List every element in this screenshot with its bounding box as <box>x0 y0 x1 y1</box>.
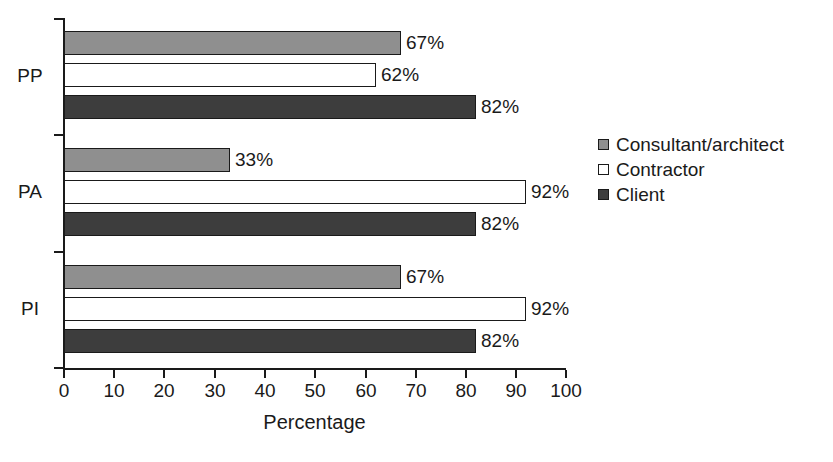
x-axis-tick <box>565 370 567 378</box>
bar-value-pp-client: 82% <box>481 95 519 119</box>
bar-value-pp-contractor: 62% <box>381 63 419 87</box>
legend-swatch-client-icon <box>598 189 609 200</box>
bar-value-pa-contractor: 92% <box>531 180 569 204</box>
bar-pi-consultant-architect <box>64 265 401 289</box>
y-category-label-pi: PI <box>8 298 52 320</box>
x-axis-tick <box>515 370 517 378</box>
x-tick-label-70: 70 <box>396 380 436 402</box>
x-axis-tick <box>415 370 417 378</box>
legend-label-consultant-architect: Consultant/architect <box>616 134 784 156</box>
bar-pi-client <box>64 329 476 353</box>
x-axis-tick <box>365 370 367 378</box>
bar-pi-contractor <box>64 297 526 321</box>
x-axis-tick <box>113 370 115 378</box>
bar-pa-client <box>64 212 476 236</box>
bar-value-pa-consultant-architect: 33% <box>235 148 273 172</box>
legend-item-client: Client <box>598 182 784 207</box>
chart-legend: Consultant/architect Contractor Client <box>598 132 784 207</box>
x-axis-tick <box>214 370 216 378</box>
x-axis-tick <box>163 370 165 378</box>
y-axis-tick <box>54 18 63 20</box>
y-axis-tick <box>54 134 63 136</box>
bar-value-pa-client: 82% <box>481 212 519 236</box>
bar-pp-consultant-architect <box>64 31 401 55</box>
bar-chart: 0 10 20 30 40 50 60 70 80 90 100 PP PA P… <box>0 0 833 462</box>
bar-pa-consultant-architect <box>64 148 230 172</box>
bar-value-pi-consultant-architect: 67% <box>406 265 444 289</box>
bar-value-pi-client: 82% <box>481 329 519 353</box>
bar-value-pp-consultant-architect: 67% <box>406 31 444 55</box>
legend-item-contractor: Contractor <box>598 157 784 182</box>
x-tick-label-100: 100 <box>546 380 586 402</box>
x-axis-title: Percentage <box>63 410 566 434</box>
x-tick-label-30: 30 <box>195 380 235 402</box>
bar-pa-contractor <box>64 180 526 204</box>
legend-label-contractor: Contractor <box>616 159 705 181</box>
legend-swatch-consultant-architect-icon <box>598 139 609 150</box>
legend-swatch-contractor-icon <box>598 164 609 175</box>
bar-value-pi-contractor: 92% <box>531 297 569 321</box>
y-axis-tick <box>54 251 63 253</box>
x-tick-label-90: 90 <box>496 380 536 402</box>
bar-pp-client <box>64 95 476 119</box>
x-axis-tick <box>465 370 467 378</box>
x-axis-tick <box>264 370 266 378</box>
x-tick-label-20: 20 <box>144 380 184 402</box>
y-category-label-pp: PP <box>8 65 52 87</box>
x-tick-label-40: 40 <box>245 380 285 402</box>
x-axis-tick <box>63 370 65 378</box>
x-axis-tick <box>314 370 316 378</box>
x-tick-label-50: 50 <box>295 380 335 402</box>
x-tick-label-80: 80 <box>446 380 486 402</box>
legend-item-consultant-architect: Consultant/architect <box>598 132 784 157</box>
y-category-label-pa: PA <box>8 181 52 203</box>
bar-pp-contractor <box>64 63 376 87</box>
x-tick-label-0: 0 <box>44 380 84 402</box>
legend-label-client: Client <box>616 184 665 206</box>
y-axis-tick <box>54 367 63 369</box>
x-tick-label-60: 60 <box>346 380 386 402</box>
x-tick-label-10: 10 <box>94 380 134 402</box>
